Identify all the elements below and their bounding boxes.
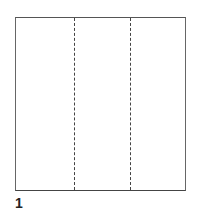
fold-line-right [130, 18, 131, 190]
paper-square [15, 17, 186, 191]
fold-line-left [74, 18, 75, 190]
step-number: 1 [15, 196, 23, 210]
